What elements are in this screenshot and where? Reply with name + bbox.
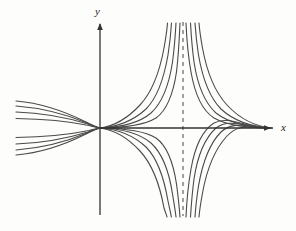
solution-curve bbox=[100, 128, 167, 217]
solution-curve bbox=[100, 23, 168, 128]
solution-curve bbox=[100, 23, 176, 128]
curve-group-right-upper bbox=[186, 23, 272, 128]
solution-curve bbox=[100, 23, 180, 128]
solution-curve bbox=[186, 23, 272, 128]
direction-field-figure: y x bbox=[0, 0, 296, 231]
solution-curve bbox=[199, 127, 272, 217]
curve-group-right-lower bbox=[186, 120, 272, 217]
plot-canvas bbox=[0, 0, 296, 231]
solution-curve bbox=[100, 23, 172, 128]
x-axis-label: x bbox=[281, 122, 286, 133]
solution-curve bbox=[100, 128, 176, 217]
y-axis-label: y bbox=[95, 6, 100, 17]
curve-group-mid-lower bbox=[100, 128, 180, 217]
solution-curve bbox=[186, 120, 272, 217]
curve-group-mid-upper bbox=[100, 23, 180, 128]
solution-curve bbox=[191, 123, 273, 217]
curve-group-left-branch bbox=[16, 101, 100, 155]
solution-curve bbox=[199, 23, 272, 128]
